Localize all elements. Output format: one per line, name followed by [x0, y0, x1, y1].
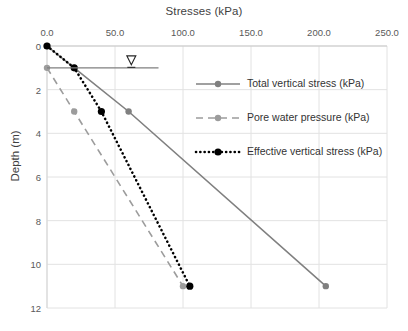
legend-item-label-1: Pore water pressure (kPa): [247, 111, 370, 123]
legend-item-label-2: Effective vertical stress (kPa): [247, 145, 382, 157]
series-0-point-3: [323, 283, 329, 289]
series-1-point-1: [71, 108, 77, 114]
legend-swatch-marker-1: [215, 115, 221, 121]
plot-canvas: [0, 0, 408, 331]
water-table-triangle-icon: [127, 56, 136, 65]
series-2-point-0: [43, 42, 50, 49]
series-0-point-2: [125, 108, 131, 114]
series-2-point-3: [186, 283, 193, 290]
legend-swatch-marker-2: [214, 148, 221, 155]
stress-depth-chart: Stresses (kPa) Depth (m) 0.050.0100.0150…: [0, 0, 408, 331]
legend-swatch-marker-0: [215, 81, 221, 87]
legend-item-label-0: Total vertical stress (kPa): [247, 77, 364, 89]
series-2-point-2: [98, 108, 105, 115]
series-1-point-2: [180, 283, 186, 289]
series-line-2: [47, 46, 190, 286]
